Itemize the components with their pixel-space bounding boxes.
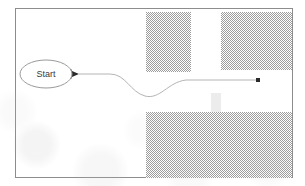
- flow-diagram: Start: [0, 0, 305, 186]
- diagram-canvas: Start: [0, 0, 305, 186]
- edge-end-square-dot-icon: [256, 78, 260, 82]
- hatched-block-top-right: [221, 12, 292, 70]
- faint-tab-block: [211, 93, 221, 112]
- hatched-block-top-left: [146, 12, 191, 72]
- hatched-block-bottom: [146, 112, 292, 178]
- node-start-label: Start: [36, 69, 56, 79]
